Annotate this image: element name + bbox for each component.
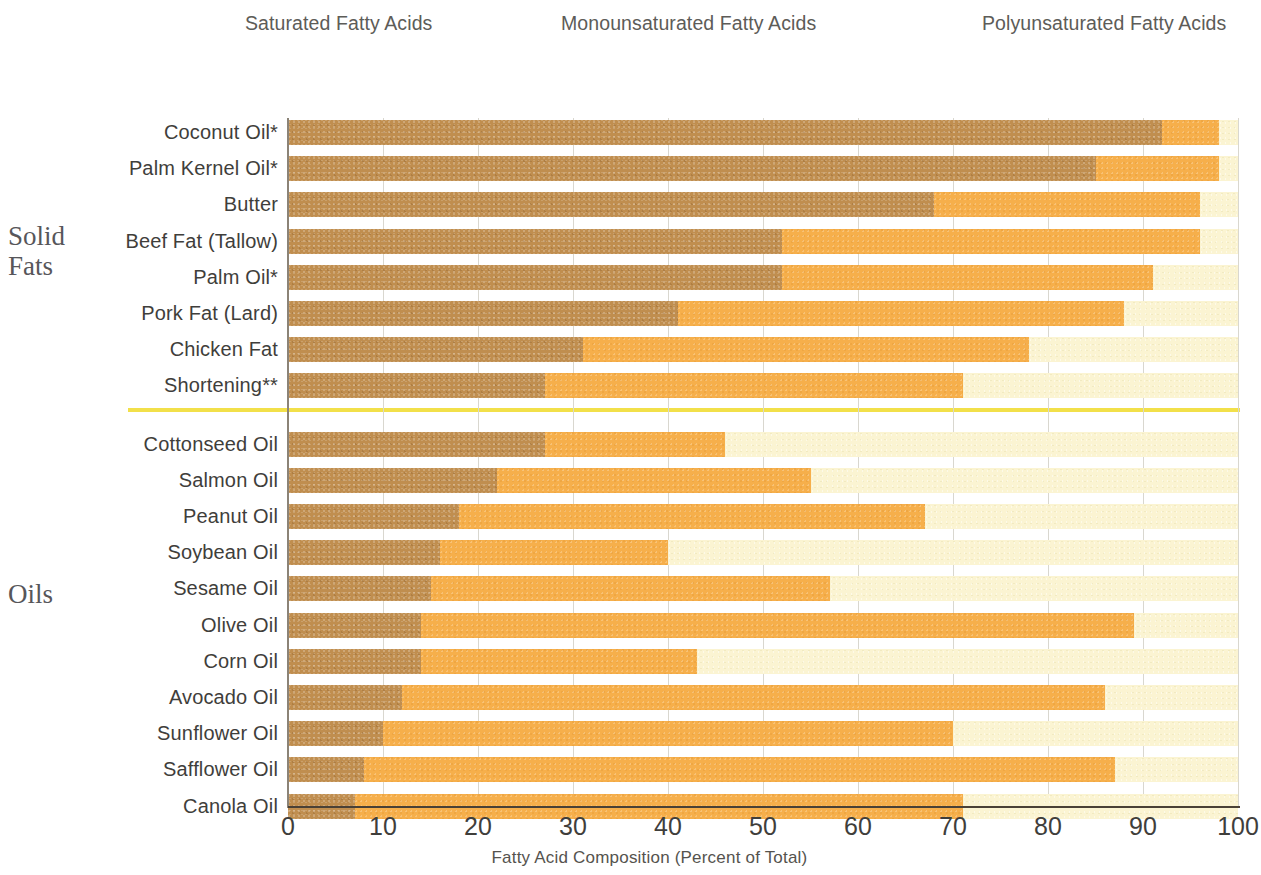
bar-segment-polyunsaturated <box>1219 156 1238 181</box>
x-tick-label-70: 70 <box>923 812 983 841</box>
x-tick-label-80: 80 <box>1018 812 1078 841</box>
bar-segment-saturated <box>288 265 782 290</box>
gridline-100 <box>1238 118 1239 808</box>
x-axis-line <box>288 806 1240 808</box>
bar-segment-monounsaturated <box>545 373 963 398</box>
bar-segment-saturated <box>288 337 583 362</box>
bar-segment-polyunsaturated <box>697 649 1239 674</box>
category-axis-labels: Coconut Oil*Palm Kernel Oil*ButterBeef F… <box>0 118 278 808</box>
bar-row <box>288 265 1238 290</box>
bar-segment-polyunsaturated <box>1200 229 1238 254</box>
bar-row <box>288 337 1238 362</box>
bar-segment-monounsaturated <box>364 757 1115 782</box>
bar-segment-monounsaturated <box>782 229 1200 254</box>
x-axis-title: Fatty Acid Composition (Percent of Total… <box>0 848 1261 868</box>
bar-segment-polyunsaturated <box>925 504 1239 529</box>
bar-segment-saturated <box>288 613 421 638</box>
legend-item-polyunsaturated: Polyunsaturated Fatty Acids <box>930 12 1226 35</box>
category-label: Beef Fat (Tallow) <box>8 230 278 253</box>
category-label: Avocado Oil <box>8 686 278 709</box>
category-label: Cottonseed Oil <box>8 433 278 456</box>
bar-segment-saturated <box>288 540 440 565</box>
category-label: Chicken Fat <box>8 338 278 361</box>
x-tick-label-40: 40 <box>638 812 698 841</box>
category-label: Safflower Oil <box>8 758 278 781</box>
bar-row <box>288 576 1238 601</box>
bar-segment-polyunsaturated <box>1200 192 1238 217</box>
bar-row <box>288 156 1238 181</box>
bar-segment-polyunsaturated <box>1153 265 1239 290</box>
legend-label-monounsaturated: Monounsaturated Fatty Acids <box>561 12 816 35</box>
bar-segment-polyunsaturated <box>1029 337 1238 362</box>
bar-row <box>288 540 1238 565</box>
bar-segment-monounsaturated <box>583 337 1030 362</box>
bar-segment-polyunsaturated <box>963 373 1239 398</box>
bar-row <box>288 373 1238 398</box>
bar-segment-saturated <box>288 192 934 217</box>
category-label: Butter <box>8 193 278 216</box>
bar-segment-monounsaturated <box>402 685 1105 710</box>
bar-segment-monounsaturated <box>421 649 697 674</box>
x-tick-label-50: 50 <box>733 812 793 841</box>
category-label: Olive Oil <box>8 614 278 637</box>
category-label: Canola Oil <box>8 795 278 818</box>
bar-row <box>288 432 1238 457</box>
bar-segment-saturated <box>288 649 421 674</box>
bar-segment-saturated <box>288 373 545 398</box>
bar-row <box>288 468 1238 493</box>
bar-row <box>288 649 1238 674</box>
bar-segment-saturated <box>288 432 545 457</box>
bar-segment-polyunsaturated <box>1134 613 1239 638</box>
category-label: Peanut Oil <box>8 505 278 528</box>
bar-segment-saturated <box>288 757 364 782</box>
x-tick-label-20: 20 <box>448 812 508 841</box>
plot-area <box>288 118 1238 808</box>
bar-segment-polyunsaturated <box>1219 120 1238 145</box>
bar-row <box>288 721 1238 746</box>
bar-segment-saturated <box>288 721 383 746</box>
bar-segment-saturated <box>288 576 431 601</box>
bar-segment-monounsaturated <box>678 301 1125 326</box>
bar-row <box>288 613 1238 638</box>
category-label: Shortening** <box>8 374 278 397</box>
bar-row <box>288 757 1238 782</box>
bar-segment-monounsaturated <box>545 432 726 457</box>
bar-segment-saturated <box>288 229 782 254</box>
category-label: Sesame Oil <box>8 577 278 600</box>
bar-segment-monounsaturated <box>497 468 811 493</box>
bar-segment-polyunsaturated <box>668 540 1238 565</box>
bar-row <box>288 301 1238 326</box>
x-tick-label-60: 60 <box>828 812 888 841</box>
legend-item-monounsaturated: Monounsaturated Fatty Acids <box>509 12 816 35</box>
bar-segment-saturated <box>288 468 497 493</box>
category-label: Corn Oil <box>8 650 278 673</box>
category-label: Palm Kernel Oil* <box>8 157 278 180</box>
x-axis-title-text: Fatty Acid Composition (Percent of Total… <box>492 848 808 868</box>
bar-row <box>288 192 1238 217</box>
bar-segment-monounsaturated <box>440 540 668 565</box>
bar-segment-monounsaturated <box>934 192 1200 217</box>
bar-segment-polyunsaturated <box>1105 685 1238 710</box>
category-label: Sunflower Oil <box>8 722 278 745</box>
category-label: Soybean Oil <box>8 541 278 564</box>
bar-segment-polyunsaturated <box>725 432 1238 457</box>
bar-segment-monounsaturated <box>431 576 830 601</box>
bar-segment-polyunsaturated <box>830 576 1239 601</box>
x-tick-label-30: 30 <box>543 812 603 841</box>
bar-segment-monounsaturated <box>782 265 1153 290</box>
legend-item-saturated: Saturated Fatty Acids <box>193 12 432 35</box>
category-label: Pork Fat (Lard) <box>8 302 278 325</box>
bar-segment-polyunsaturated <box>811 468 1239 493</box>
bar-segment-monounsaturated <box>421 613 1134 638</box>
bar-segment-monounsaturated <box>383 721 953 746</box>
x-tick-label-10: 10 <box>353 812 413 841</box>
bar-segment-saturated <box>288 504 459 529</box>
bar-segment-monounsaturated <box>1162 120 1219 145</box>
legend-label-polyunsaturated: Polyunsaturated Fatty Acids <box>982 12 1226 35</box>
bar-segment-saturated <box>288 685 402 710</box>
bar-segment-saturated <box>288 301 678 326</box>
x-tick-label-100: 100 <box>1208 812 1261 841</box>
bar-row <box>288 504 1238 529</box>
category-label: Coconut Oil* <box>8 121 278 144</box>
y-axis-line <box>287 118 289 808</box>
